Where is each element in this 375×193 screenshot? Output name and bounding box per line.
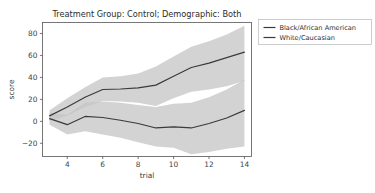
legend-label-1: Black/African American xyxy=(280,24,357,32)
y-tick-label: −20 xyxy=(22,139,38,148)
x-axis-title: trial xyxy=(140,171,155,180)
x-tick-label: 6 xyxy=(100,160,105,169)
y-axis-title: score xyxy=(7,79,16,99)
legend-label-2: White/Caucasian xyxy=(280,34,335,42)
chart-title: Treatment Group: Control; Demographic: B… xyxy=(52,9,242,19)
x-tick-label: 10 xyxy=(169,160,179,169)
x-tick-label: 8 xyxy=(136,160,141,169)
y-tick-label: 40 xyxy=(28,73,38,82)
x-tick-label: 12 xyxy=(204,160,213,169)
x-tick-label: 14 xyxy=(240,160,250,169)
figure-container: 468101214−20020406080trialscoreTreatment… xyxy=(0,0,375,193)
y-tick-label: 60 xyxy=(28,51,38,60)
line-chart: 468101214−20020406080trialscoreTreatment… xyxy=(0,0,375,193)
y-tick-label: 0 xyxy=(33,117,38,126)
y-tick-label: 80 xyxy=(28,29,38,38)
x-tick-label: 4 xyxy=(65,160,70,169)
y-tick-label: 20 xyxy=(28,95,38,104)
